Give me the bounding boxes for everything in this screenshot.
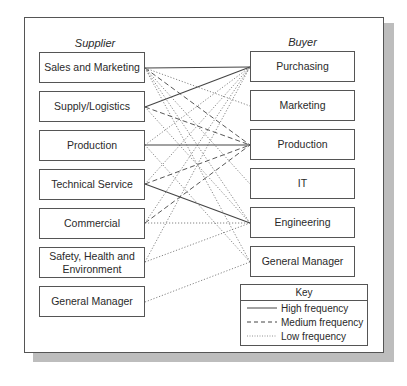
supplier-supply-logistics: Supply/Logistics — [39, 91, 145, 122]
supplier-general-manager: General Manager — [39, 286, 145, 317]
legend-label: Low frequency — [281, 331, 346, 342]
buyer-production: Production — [250, 129, 355, 160]
buyer-it: IT — [250, 168, 355, 199]
buyer-purchasing: Purchasing — [250, 51, 355, 82]
solid-line-icon — [247, 305, 277, 311]
supplier-technical-service: Technical Service — [39, 169, 145, 200]
legend-label: Medium frequency — [281, 317, 363, 328]
legend-item-low: Low frequency — [241, 329, 367, 343]
buyer-engineering: Engineering — [250, 207, 355, 238]
legend-title: Key — [241, 285, 367, 301]
legend-item-high: High frequency — [241, 301, 367, 315]
legend: Key High frequency Medium frequency Low … — [240, 284, 368, 346]
supplier-production: Production — [39, 130, 145, 161]
legend-item-medium: Medium frequency — [241, 315, 367, 329]
supplier-safety-health-environment: Safety, Health and Environment — [39, 247, 145, 278]
buyer-general-manager: General Manager — [250, 246, 355, 277]
legend-label: High frequency — [281, 303, 348, 314]
supplier-commercial: Commercial — [39, 208, 145, 239]
supplier-sales-and-marketing: Sales and Marketing — [39, 52, 145, 83]
buyer-marketing: Marketing — [250, 90, 355, 121]
dotted-line-icon — [247, 333, 277, 339]
dashed-line-icon — [247, 319, 277, 325]
